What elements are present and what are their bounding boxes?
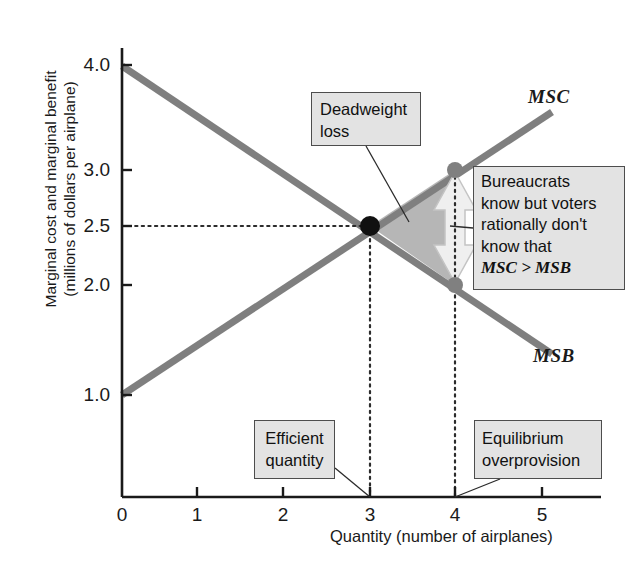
callout-efficient-quantity: Efficient quantity [254,420,335,479]
msb-curve-label: MSB [533,345,575,367]
callout-efficient-line1: Efficient [259,427,330,449]
x-axis-title: Quantity (number of airplanes) [330,527,553,546]
callout-deadweight-loss: Deadweight loss [311,92,421,146]
callout-efficient-line2: quantity [259,449,330,471]
leader-line-equilibrium [455,479,500,497]
leader-line-efficient [335,468,370,497]
x-tick-label-2: 2 [268,504,298,526]
x-tick-label-1: 1 [182,504,212,526]
callout-equilibrium-overprovision: Equilibrium overprovision [474,420,602,479]
x-tick-label-0: 0 [107,504,137,526]
marker-overprovision-msb [447,277,463,293]
callout-equilibrium-line1: Equilibrium [482,427,594,449]
callout-bureaucrats-line2: know but voters [481,193,617,215]
y-axis-ticks [122,65,132,395]
callout-deadweight-line2: loss [320,120,412,142]
x-tick-label-5: 5 [527,504,557,526]
marker-efficient-equilibrium [360,216,380,236]
y-tick-label-1: 1.0 [58,384,110,406]
economics-chart-figure: 4.0 3.0 2.5 2.0 1.0 0 1 2 3 4 5 Marginal… [0,0,631,573]
msc-curve-label: MSC [528,86,570,108]
x-tick-label-3: 3 [355,504,385,526]
callout-bureaucrats-note: Bureaucrats know but voters rationally d… [473,166,625,290]
y-axis-title-line2: (millions of dollars per airplane) [60,39,79,339]
callout-equilibrium-line2: overprovision [482,449,594,471]
callout-bureaucrats-line5: MSC > MSB [481,257,617,279]
x-axis-ticks [197,487,542,497]
y-axis-title: Marginal cost and marginal benefit (mill… [41,39,79,339]
callout-deadweight-line1: Deadweight [320,98,412,120]
marker-overprovision-msc [447,162,463,178]
callout-bureaucrats-line3: rationally don't [481,214,617,236]
leader-line-deadweight [366,146,409,222]
y-axis-title-line1: Marginal cost and marginal benefit [42,71,59,308]
x-tick-label-4: 4 [440,504,470,526]
callout-bureaucrats-line4: know that [481,236,617,258]
callout-bureaucrats-line1: Bureaucrats [481,171,617,193]
